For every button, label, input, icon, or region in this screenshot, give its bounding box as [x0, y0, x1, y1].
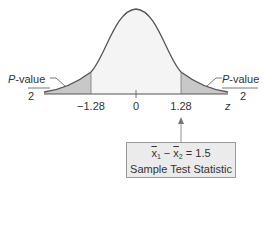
z-axis-label: z: [225, 100, 231, 112]
statistic-formula: x1 − x2 = 1.5: [127, 147, 235, 163]
statistic-caption: Sample Test Statistic: [127, 163, 235, 176]
right-pvalue-denominator: 2: [240, 90, 246, 102]
right-pvalue-label: P-value: [222, 73, 259, 85]
tick-label-neg: −1.28: [77, 100, 105, 112]
left-pvalue-denominator: 2: [28, 90, 34, 102]
left-pvalue-label: P-value: [8, 73, 45, 85]
tick-label-pos: 1.28: [170, 100, 191, 112]
test-statistic-box: x1 − x2 = 1.5 Sample Test Statistic: [126, 142, 236, 178]
tick-label-zero: 0: [133, 100, 139, 112]
